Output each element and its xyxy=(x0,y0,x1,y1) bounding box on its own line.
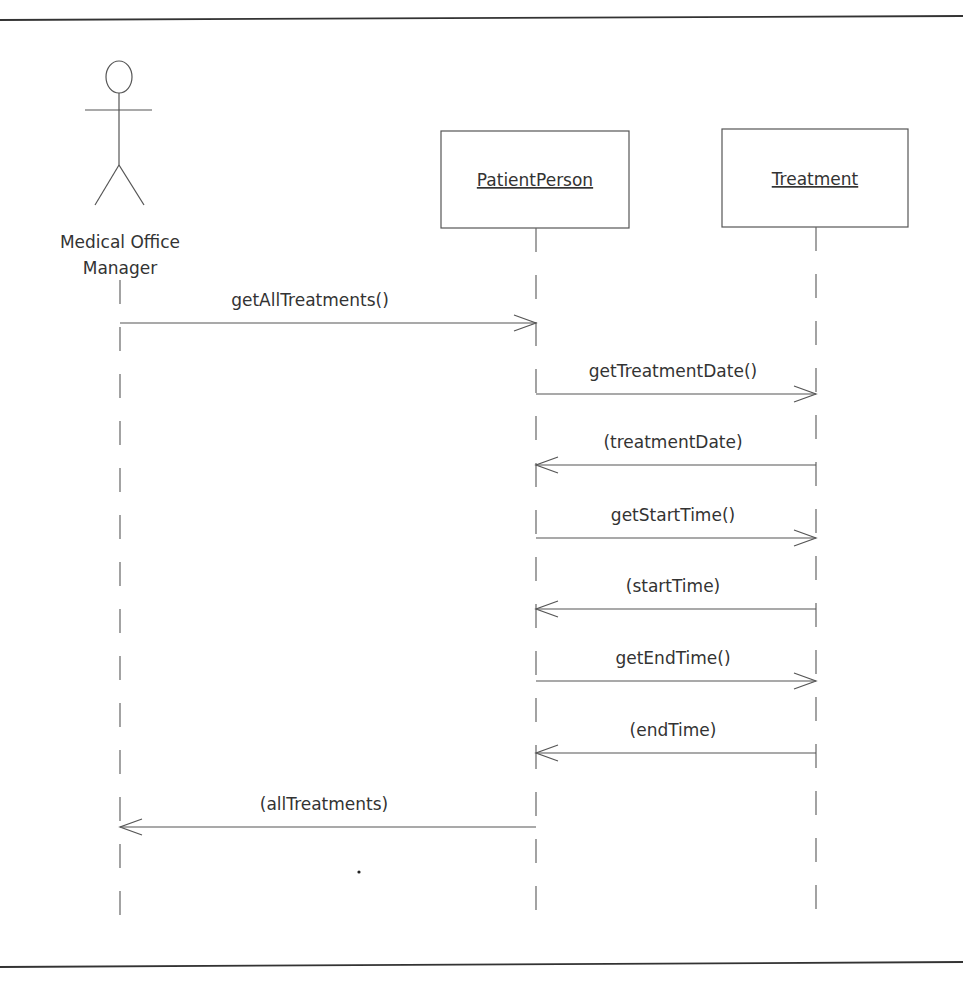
message-label: (endTime) xyxy=(630,720,717,740)
message-label: (startTime) xyxy=(626,576,720,596)
message-getstarttime: getStartTime() xyxy=(536,505,816,546)
message-label: getTreatmentDate() xyxy=(589,361,757,381)
actor-stick-figure-icon xyxy=(85,61,152,205)
message-label: getEndTime() xyxy=(615,648,730,668)
object-treatment: Treatment xyxy=(722,129,908,227)
object-label-patientperson: PatientPerson xyxy=(477,170,593,190)
message-return-alltreatments: (allTreatments) xyxy=(120,794,536,835)
message-label: (allTreatments) xyxy=(260,794,389,814)
bottom-rule xyxy=(0,962,963,967)
message-getendtime: getEndTime() xyxy=(536,648,816,689)
message-return-endtime: (endTime) xyxy=(536,720,816,761)
top-rule xyxy=(0,16,963,20)
object-label-treatment: Treatment xyxy=(771,169,859,189)
object-patientperson: PatientPerson xyxy=(441,131,629,228)
actor-label-line1: Medical Office xyxy=(60,232,180,252)
message-getalltreatments: getAllTreatments() xyxy=(120,290,536,331)
message-gettreatmentdate: getTreatmentDate() xyxy=(536,361,816,402)
actor-label-line2: Manager xyxy=(83,258,158,278)
message-return-starttime: (startTime) xyxy=(536,576,816,617)
sequence-diagram: Medical Office Manager PatientPerson Tre… xyxy=(0,0,963,985)
message-label: getStartTime() xyxy=(611,505,735,525)
message-return-treatmentdate: (treatmentDate) xyxy=(536,432,816,473)
message-label: (treatmentDate) xyxy=(603,432,742,452)
stray-dot xyxy=(357,870,360,873)
message-label: getAllTreatments() xyxy=(231,290,389,310)
